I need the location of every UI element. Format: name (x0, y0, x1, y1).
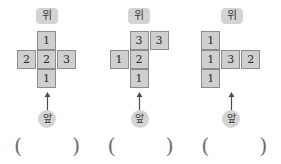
top-view-label: 위 (221, 8, 243, 24)
top-view-grid: 3 3 1 2 1 (110, 31, 170, 91)
answer-slot-3: ( ) (187, 131, 281, 164)
top-view-label: 위 (128, 8, 150, 24)
grid-cell[interactable]: 2 (17, 50, 36, 69)
figure-2: 위 3 3 1 2 1 앞 (94, 0, 188, 131)
top-view-label: 위 (36, 8, 58, 24)
front-view-label: 앞 (38, 110, 56, 128)
answer-blank-2[interactable] (118, 137, 164, 157)
front-view-label: 앞 (131, 110, 149, 128)
front-direction-arrow-icon (227, 92, 236, 112)
top-view-grid: 1 2 2 3 1 (17, 31, 77, 91)
grid-cell[interactable]: 3 (130, 31, 149, 50)
worksheet: 위 1 2 2 3 1 앞 위 3 3 1 (0, 0, 281, 164)
grid-cell[interactable]: 3 (150, 31, 169, 50)
answer-slot-1: ( ) (0, 131, 94, 164)
paren-close: ) (72, 133, 80, 159)
answer-blank-1[interactable] (24, 137, 70, 157)
paren-open: ( (14, 133, 22, 159)
answer-slot-2: ( ) (94, 131, 188, 164)
figure-1: 위 1 2 2 3 1 앞 (0, 0, 94, 131)
top-view-grid: 1 1 3 2 1 (201, 31, 261, 91)
grid-cell[interactable]: 1 (201, 50, 220, 69)
figures-row: 위 1 2 2 3 1 앞 위 3 3 1 (0, 0, 281, 131)
grid-cell[interactable]: 1 (110, 50, 129, 69)
grid-cell[interactable]: 2 (37, 50, 56, 69)
front-direction-arrow-icon (135, 92, 144, 112)
grid-cell[interactable]: 1 (201, 31, 220, 50)
answers-row: ( ) ( ) ( ) (0, 131, 281, 164)
grid-cell[interactable]: 1 (37, 69, 56, 88)
answer-blank-3[interactable] (211, 137, 257, 157)
paren-open: ( (108, 133, 116, 159)
grid-cell[interactable]: 1 (37, 31, 56, 50)
front-direction-arrow-icon (43, 92, 52, 112)
grid-cell[interactable]: 1 (201, 69, 220, 88)
paren-open: ( (201, 133, 209, 159)
paren-close: ) (259, 133, 267, 159)
grid-cell[interactable]: 1 (130, 69, 149, 88)
front-view-label: 앞 (222, 110, 240, 128)
grid-cell[interactable]: 2 (130, 50, 149, 69)
paren-close: ) (166, 133, 174, 159)
grid-cell[interactable]: 3 (57, 50, 76, 69)
grid-cell[interactable]: 2 (241, 50, 260, 69)
grid-cell[interactable]: 3 (221, 50, 240, 69)
figure-3: 위 1 1 3 2 1 앞 (187, 0, 281, 131)
